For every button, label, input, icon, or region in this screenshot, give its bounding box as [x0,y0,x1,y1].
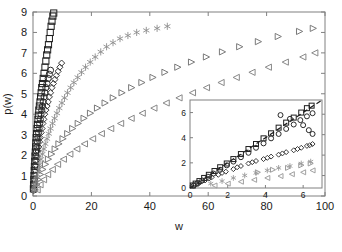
y-tick-label: 9 [21,6,27,18]
inset-y-tick-label: 0 [181,183,186,193]
y-tick-label: 7 [21,47,27,59]
y-tick-label: 1 [21,170,27,182]
inset-x-tick-label: 2 [225,190,230,200]
inset-y-tick-label: 2 [181,158,186,168]
x-tick-label: 40 [144,200,156,212]
y-tick-label: 6 [21,67,27,79]
inset-x-tick-label: 0 [188,190,193,200]
scatter-plot-svg: 02460246 0204060801000123456789wp(w) [0,0,342,252]
y-axis-label: p(w) [1,93,13,114]
figure-panel: 02460246 0204060801000123456789wp(w) [0,0,342,252]
inset-x-tick-label: 4 [263,190,268,200]
x-tick-label: 20 [85,200,97,212]
inset-y-tick-label: 4 [181,133,186,143]
x-tick-label: 80 [260,200,272,212]
inset-x-tick-label: 6 [301,190,306,200]
y-tick-label: 3 [21,129,27,141]
inset-y-tick-label: 6 [181,108,186,118]
y-tick-label: 0 [21,190,27,202]
y-tick-label: 5 [21,88,27,100]
x-tick-label: 100 [316,200,334,212]
y-tick-label: 4 [21,108,27,120]
y-tick-label: 2 [21,149,27,161]
x-axis-label: w [174,220,183,232]
y-tick-label: 8 [21,26,27,38]
x-tick-label: 0 [30,200,36,212]
x-tick-label: 60 [202,200,214,212]
